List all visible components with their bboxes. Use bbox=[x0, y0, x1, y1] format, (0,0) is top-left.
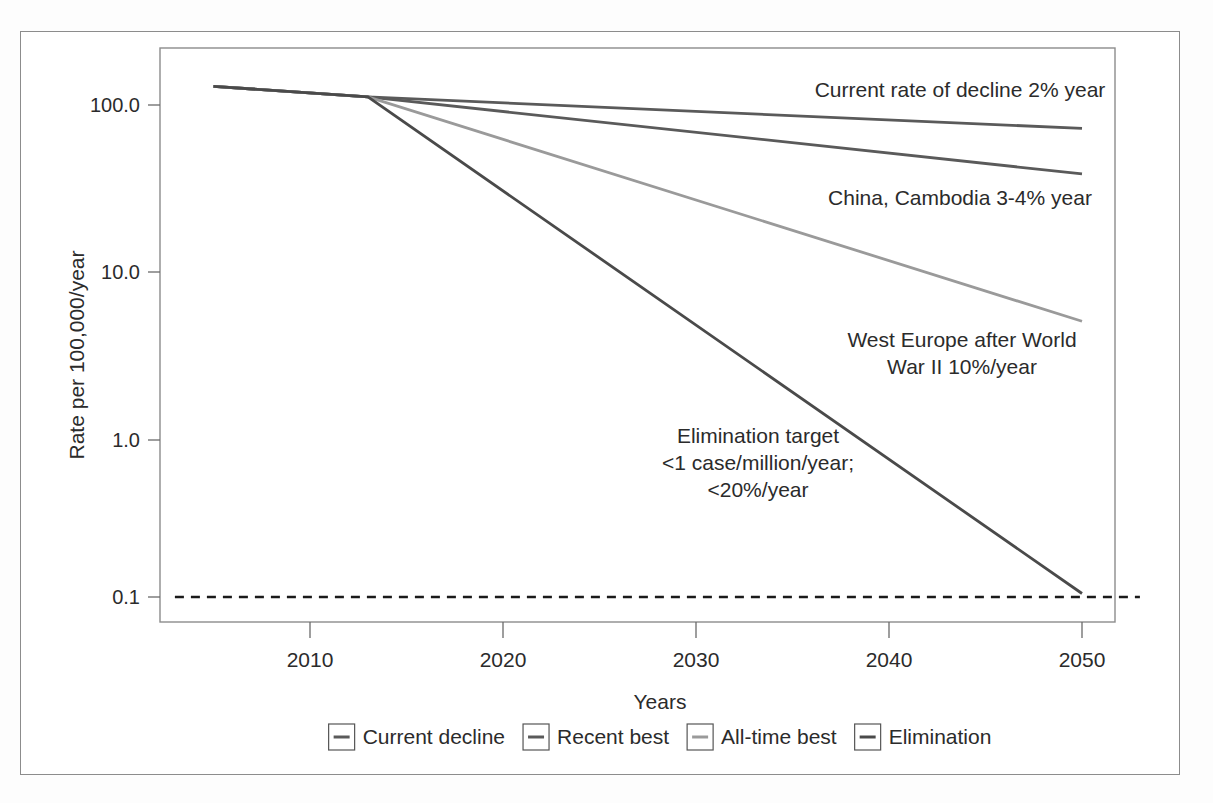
legend-label: Recent best bbox=[557, 725, 669, 748]
legend-item-elimination[interactable]: Elimination bbox=[855, 724, 992, 750]
chart-legend: Current declineRecent bestAll-time bestE… bbox=[329, 724, 992, 750]
figure-root: 100.0 10.0 1.0 0.1 Rate per 100,000/year… bbox=[0, 0, 1213, 803]
x-tick-label-2020: 2020 bbox=[480, 648, 527, 671]
legend-item-all-time-best[interactable]: All-time best bbox=[687, 724, 837, 750]
y-tick-label-10: 10.0 bbox=[101, 261, 140, 283]
current-decline-annotation: Current rate of decline 2% year bbox=[815, 78, 1106, 101]
y-tick-label-100: 100.0 bbox=[90, 94, 140, 116]
recent-best-annotation: China, Cambodia 3-4% year bbox=[828, 186, 1092, 209]
x-axis-title: Years bbox=[634, 690, 687, 713]
legend-label: All-time best bbox=[721, 725, 837, 748]
y-tick-label-0.1: 0.1 bbox=[112, 586, 140, 608]
legend-item-recent-best[interactable]: Recent best bbox=[523, 724, 669, 750]
y-tick-label-1: 1.0 bbox=[112, 429, 140, 451]
x-tick-label-2010: 2010 bbox=[287, 648, 334, 671]
legend-label: Current decline bbox=[363, 725, 505, 748]
x-axis-ticks bbox=[310, 622, 1082, 638]
x-tick-label-2040: 2040 bbox=[866, 648, 913, 671]
y-axis-ticks bbox=[148, 105, 160, 597]
legend-label: Elimination bbox=[889, 725, 992, 748]
x-tick-label-2050: 2050 bbox=[1059, 648, 1106, 671]
legend-item-current-decline[interactable]: Current decline bbox=[329, 724, 505, 750]
y-axis-title: Rate per 100,000/year bbox=[65, 251, 88, 460]
line-chart: 100.0 10.0 1.0 0.1 Rate per 100,000/year… bbox=[0, 0, 1213, 803]
x-tick-label-2030: 2030 bbox=[673, 648, 720, 671]
